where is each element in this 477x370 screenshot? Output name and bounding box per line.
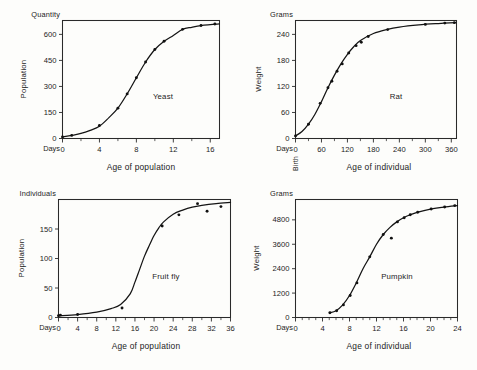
data-point <box>349 294 352 297</box>
x-tick-label: 0 <box>60 145 64 154</box>
data-point <box>360 41 363 44</box>
data-point <box>347 52 350 55</box>
y-tick-label: 150 <box>40 225 53 234</box>
x-tick-label: 24 <box>453 324 461 333</box>
yeast-x-axis-title: Age of population <box>107 162 176 172</box>
x-tick-label: 28 <box>188 324 196 333</box>
x-tick-label: 16 <box>131 324 139 333</box>
data-point <box>177 213 180 216</box>
x-tick-label: 8 <box>134 145 138 154</box>
data-point <box>161 225 164 228</box>
yeast-series-annotation: Yeast <box>153 92 174 101</box>
data-point <box>453 204 456 207</box>
data-point <box>181 28 184 31</box>
data-point <box>430 208 433 211</box>
rat-curve <box>296 23 456 136</box>
data-point <box>327 86 330 89</box>
x-tick-label: 32 <box>207 324 215 333</box>
y-tick-label: 0 <box>285 313 289 322</box>
data-point <box>409 213 412 216</box>
x-tick-label: 8 <box>347 324 351 333</box>
data-point <box>453 21 456 24</box>
x-tick-label: 4 <box>320 324 324 333</box>
data-point <box>382 233 385 236</box>
y-tick-label: 0 <box>48 313 52 322</box>
data-point <box>403 216 406 219</box>
y-tick-label: 240 <box>277 30 290 39</box>
pumpkin-frame <box>296 200 458 318</box>
yeast-x-ticks: 0481216 <box>60 139 214 154</box>
y-tick-label: 3600 <box>273 240 290 249</box>
data-point <box>342 303 345 306</box>
x-tick-label: 300 <box>419 145 432 154</box>
panel-pumpkin: 01200240036004800 04812162024 Grams Days… <box>239 185 477 370</box>
data-point <box>213 23 216 26</box>
panel-rat: 060120180240 060120180240300360 Grams Da… <box>239 0 477 185</box>
data-point <box>98 124 101 127</box>
y-tick-label: 300 <box>44 82 57 91</box>
fruit-fly-plot: 050100150 04812162024283236 Individuals … <box>0 185 238 370</box>
x-tick-label: 12 <box>169 145 177 154</box>
data-point <box>163 40 166 43</box>
rat-series-annotation: Rat <box>390 92 403 101</box>
data-point <box>386 28 389 31</box>
data-point <box>206 210 209 213</box>
yeast-y-unit-label: Quantity <box>31 10 60 19</box>
x-tick-label: 16 <box>399 324 407 333</box>
fruit-fly-y-ticks: 050100150 <box>40 225 59 323</box>
data-point <box>219 205 222 208</box>
y-tick-label: 150 <box>44 108 57 117</box>
data-point <box>424 23 427 26</box>
panel-fruit-fly: 050100150 04812162024283236 Individuals … <box>0 185 238 370</box>
rat-plot: 060120180240 060120180240300360 Grams Da… <box>239 0 477 185</box>
x-tick-label: 4 <box>75 324 79 333</box>
data-point <box>76 313 79 316</box>
fruit-fly-frame <box>59 200 231 318</box>
data-point <box>330 80 333 83</box>
y-tick-label: 60 <box>281 108 289 117</box>
rat-frame <box>296 21 457 139</box>
y-tick-label: 120 <box>277 82 290 91</box>
x-tick-label: 180 <box>367 145 380 154</box>
x-tick-label: 12 <box>112 324 120 333</box>
y-tick-label: 50 <box>44 284 52 293</box>
x-tick-label: 0 <box>56 324 60 333</box>
data-point <box>367 35 370 38</box>
fruit-fly-x-unit-label: Days <box>39 323 56 332</box>
yeast-curve <box>63 24 220 137</box>
data-point <box>135 76 138 79</box>
growth-curves-figure: 0150300450600 0481216 Quantity Days Popu… <box>0 0 477 370</box>
x-tick-label: 0 <box>293 324 297 333</box>
data-point <box>70 134 73 137</box>
pumpkin-plot: 01200240036004800 04812162024 Grams Days… <box>239 185 477 370</box>
fruit-fly-y-unit-label: Individuals <box>19 189 56 198</box>
pumpkin-series-annotation: Pumpkin <box>381 272 413 281</box>
pumpkin-x-axis-title: Age of individual <box>347 341 412 351</box>
rat-x-axis-title: Age of individual <box>347 162 412 172</box>
x-tick-label: 20 <box>426 324 434 333</box>
data-point <box>355 44 358 47</box>
y-tick-label: 0 <box>52 134 56 143</box>
data-point <box>443 22 446 25</box>
data-point <box>116 107 119 110</box>
data-point <box>59 314 62 317</box>
rat-x-unit-label: Days <box>276 144 293 153</box>
y-tick-label: 600 <box>44 30 57 39</box>
data-point <box>335 309 338 312</box>
yeast-x-unit-label: Days <box>43 144 60 153</box>
data-point <box>126 92 129 95</box>
data-point <box>396 220 399 223</box>
x-tick-label: 0 <box>293 145 297 154</box>
fruit-fly-curve <box>59 202 231 315</box>
x-tick-label: 36 <box>226 324 234 333</box>
fruit-fly-x-axis-title: Age of population <box>112 341 181 351</box>
data-point <box>153 48 156 51</box>
data-point <box>341 62 344 65</box>
data-point <box>336 70 339 73</box>
x-tick-label: 24 <box>169 324 177 333</box>
pumpkin-curve <box>329 206 457 313</box>
y-tick-label: 0 <box>285 134 289 143</box>
rat-x-ticks: 060120180240300360 <box>293 139 457 154</box>
x-tick-label: 120 <box>341 145 354 154</box>
pumpkin-y-unit-label: Grams <box>270 189 293 198</box>
